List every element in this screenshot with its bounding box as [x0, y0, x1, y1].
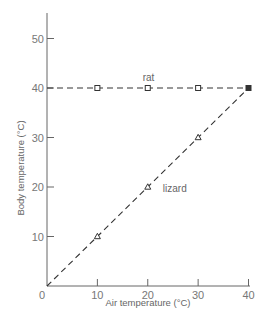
- y-ticks: 1020304050: [32, 33, 54, 243]
- x-tick-label: 0: [39, 289, 45, 301]
- series-label-rat: rat: [143, 72, 155, 83]
- x-tick-label: 10: [91, 289, 103, 301]
- y-tick-label: 40: [32, 82, 44, 94]
- x-tick-label: 30: [192, 289, 204, 301]
- x-axis-title: Air temperature (°C): [105, 297, 190, 308]
- x-tick-label: 40: [242, 289, 254, 301]
- rat-marker-square: [246, 86, 251, 91]
- y-tick-label: 20: [32, 181, 44, 193]
- y-tick-label: 30: [32, 132, 44, 144]
- y-tick-label: 50: [32, 33, 44, 45]
- chart: 1020304050 010203040 ratlizard Air tempe…: [0, 0, 266, 323]
- rat-marker-square: [95, 86, 100, 91]
- rat-marker-square: [196, 86, 201, 91]
- axes: [47, 13, 250, 286]
- y-axis-title: Body temperature (°C): [15, 120, 26, 215]
- series-label-lizard: lizard: [163, 183, 187, 194]
- rat-marker-square: [145, 86, 150, 91]
- series: [47, 86, 251, 287]
- y-tick-label: 10: [32, 231, 44, 243]
